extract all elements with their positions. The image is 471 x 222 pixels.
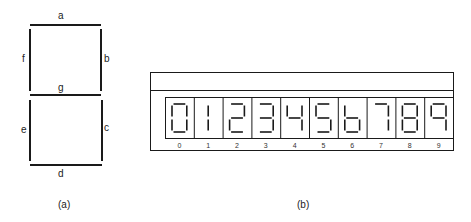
digit-label-3: 3: [251, 142, 280, 149]
figure-b-caption: (b): [297, 200, 309, 210]
digit-label-6: 6: [338, 142, 367, 149]
digit-label-0: 0: [165, 142, 194, 149]
digit-label-7: 7: [367, 142, 396, 149]
digit-glyph-5: [316, 104, 331, 132]
digit-label-1: 1: [194, 142, 223, 149]
digit-label-9: 9: [424, 142, 453, 149]
digit-glyph-6: [345, 106, 360, 133]
digit-glyph-2: [230, 104, 245, 132]
digit-label-5: 5: [309, 142, 338, 149]
digit-label-8: 8: [395, 142, 424, 149]
digit-glyph-0: [172, 104, 187, 132]
digit-glyph-3: [260, 104, 273, 132]
digit-glyph-9: [431, 104, 446, 131]
digit-glyph-4: [287, 106, 302, 131]
display-device-frame: [0, 0, 471, 222]
digit-label-2: 2: [223, 142, 252, 149]
digit-glyph-8: [402, 104, 417, 132]
digit-label-4: 4: [280, 142, 309, 149]
digit-glyph-7: [375, 104, 388, 131]
